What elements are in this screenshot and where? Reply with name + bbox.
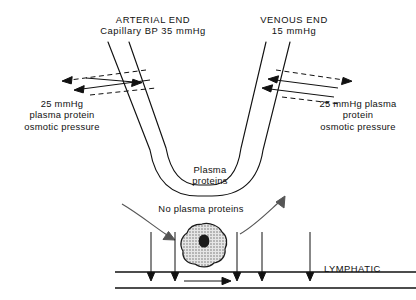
venous-solid-line-in-bottom [270,89,334,97]
lymph-arrow-1 [147,232,154,281]
plasma-proteins-label: Plasmaproteins [164,165,256,186]
curved-arrowhead-out-right [276,196,285,208]
curved-arrowhead-in-left [163,232,175,241]
tissue-cell [181,223,227,266]
venous-dashed-line-top [276,70,344,80]
arterial-osmotic-pressure-label: 25 mmHgplasma proteinosmotic pressure [6,98,118,132]
no-plasma-proteins-label: No plasma proteins [126,203,276,214]
venous-arrowhead-in-top [268,76,279,83]
lymphatic-label: LYMPHATIC [324,263,404,274]
lymph-flow-arrowhead [222,277,231,284]
arterial-end-title: ARTERIAL END [116,14,190,25]
cell-nucleus [199,234,210,247]
lymph-arrow-3 [233,232,240,281]
lymph-arrow-5 [306,232,313,281]
arterial-flux-arrows [62,70,156,95]
venous-pressure-value: 15 mmHg [272,25,317,36]
arterial-arrowhead-out-mid [74,86,84,93]
arterial-pressure-value: Capillary BP 35 mmHg [100,25,206,36]
venous-end-title: VENOUS END [260,14,328,25]
arterial-end-label: ARTERIAL ENDCapillary BP 35 mmHg [78,14,228,37]
venous-end-label: VENOUS END15 mmHg [228,14,360,37]
venous-osmotic-pressure-label: 25 mmHg plasmaproteinosmotic pressure [300,98,416,132]
arterial-dashed-line-top [70,70,146,80]
arterial-arrowhead-out-top [62,77,72,84]
venous-solid-line-in-top [276,80,338,88]
capillary-exchange-diagram: ARTERIAL ENDCapillary BP 35 mmHg VENOUS … [0,0,416,300]
arterial-solid-line-in [86,78,134,82]
lymph-flow-arrow [184,277,231,284]
venous-arrowhead-out-top [342,77,353,84]
diagram-canvas [0,0,416,300]
arterial-arrowhead-in [132,79,142,86]
lymph-arrow-4 [258,232,265,281]
venous-arrowhead-in-bottom [262,85,273,92]
